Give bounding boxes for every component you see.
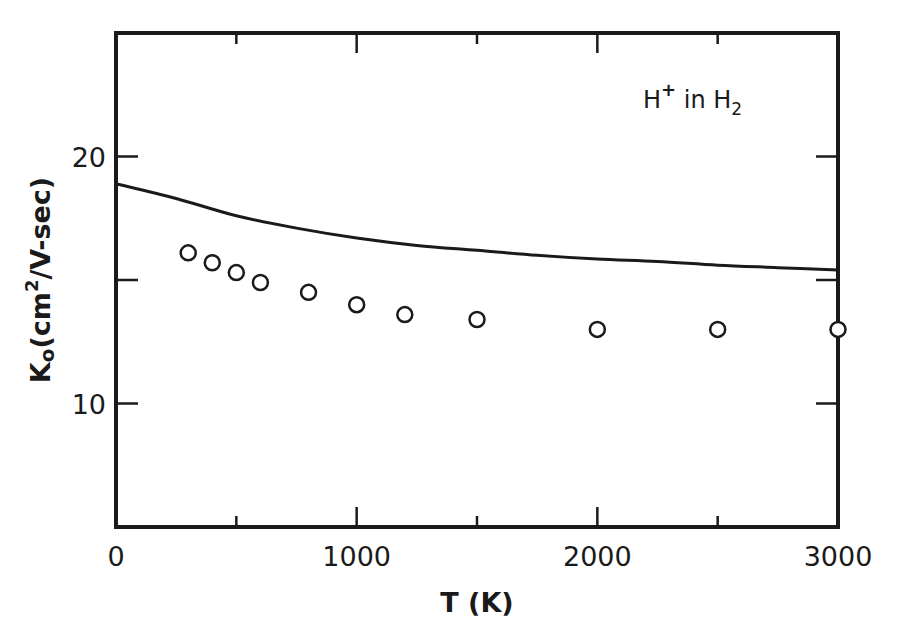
x-tick-label: 0 xyxy=(107,541,124,572)
x-tick-labels: 0100020003000 xyxy=(107,541,872,572)
theory-curve xyxy=(116,184,838,270)
x-tick-label: 3000 xyxy=(804,541,873,572)
data-point xyxy=(831,322,846,337)
data-point xyxy=(590,322,605,337)
data-point xyxy=(205,255,220,270)
y-axis-title: Ko(cm2/V-sec) xyxy=(21,177,59,383)
data-point xyxy=(710,322,725,337)
y-tick-label: 20 xyxy=(72,142,106,173)
data-point xyxy=(397,307,412,322)
x-tick-label: 2000 xyxy=(563,541,632,572)
y-tick-labels: 1020 xyxy=(72,142,106,420)
data-point xyxy=(470,312,485,327)
data-point xyxy=(301,285,316,300)
data-points xyxy=(181,245,846,337)
data-point xyxy=(181,245,196,260)
data-point xyxy=(349,297,364,312)
data-point xyxy=(253,275,268,290)
annotation-label: H+ in H2 xyxy=(643,79,742,119)
x-axis-title: T (K) xyxy=(440,587,513,618)
data-point xyxy=(229,265,244,280)
y-tick-label: 10 xyxy=(72,389,106,420)
chart: 0100020003000 1020 H+ in H2 T (K) Ko(cm2… xyxy=(0,0,899,643)
x-tick-label: 1000 xyxy=(322,541,391,572)
